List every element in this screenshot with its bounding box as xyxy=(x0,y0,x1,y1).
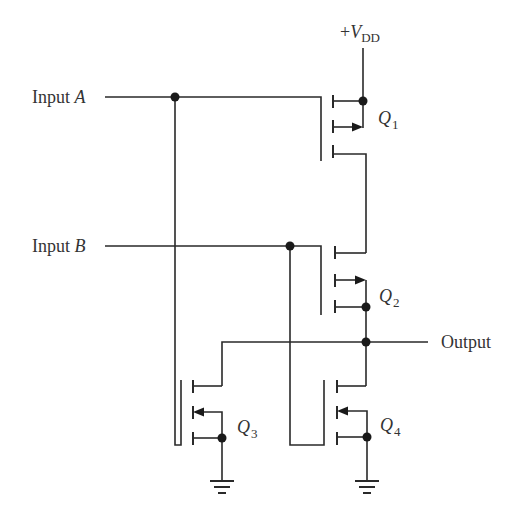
transistor-q3: Q 3 xyxy=(193,380,258,480)
ground-icon xyxy=(355,481,379,493)
svg-text:Q: Q xyxy=(378,108,391,128)
input-a-wire xyxy=(105,97,321,161)
svg-text:4: 4 xyxy=(394,424,401,439)
svg-text:2: 2 xyxy=(393,295,400,310)
arrow-icon xyxy=(337,407,348,416)
input-a-to-q3-wire xyxy=(175,97,181,445)
junction-dot xyxy=(362,338,371,347)
svg-text:Q: Q xyxy=(380,415,393,435)
input-a-label: Input A xyxy=(32,87,87,107)
svg-text:+VDD: +VDD xyxy=(340,22,380,45)
svg-text:1: 1 xyxy=(392,117,399,132)
transistor-q2: Q 2 xyxy=(335,246,400,342)
output-label: Output xyxy=(441,332,491,352)
ground-icon xyxy=(210,481,234,493)
transistor-q1: Q 1 xyxy=(333,95,399,253)
input-b-to-q4-wire xyxy=(290,246,324,445)
transistor-q4: Q 4 xyxy=(337,380,401,480)
output-wire xyxy=(222,342,428,386)
svg-text:Q: Q xyxy=(379,286,392,306)
arrow-icon xyxy=(352,123,363,132)
input-b-label: Input B xyxy=(32,236,86,256)
svg-text:Q: Q xyxy=(237,417,250,437)
svg-text:Input A: Input A xyxy=(32,87,87,107)
junction-dot xyxy=(286,242,295,251)
input-b-wire xyxy=(105,246,321,315)
arrow-icon xyxy=(355,276,366,285)
svg-text:3: 3 xyxy=(251,426,258,441)
nor-gate-schematic: +VDD Input A Q 1 Input B Q 2 xyxy=(0,0,525,520)
arrow-icon xyxy=(193,408,204,417)
junction-dot xyxy=(171,93,180,102)
svg-text:Input B: Input B xyxy=(32,236,86,256)
vdd-label: +VDD xyxy=(340,22,380,45)
